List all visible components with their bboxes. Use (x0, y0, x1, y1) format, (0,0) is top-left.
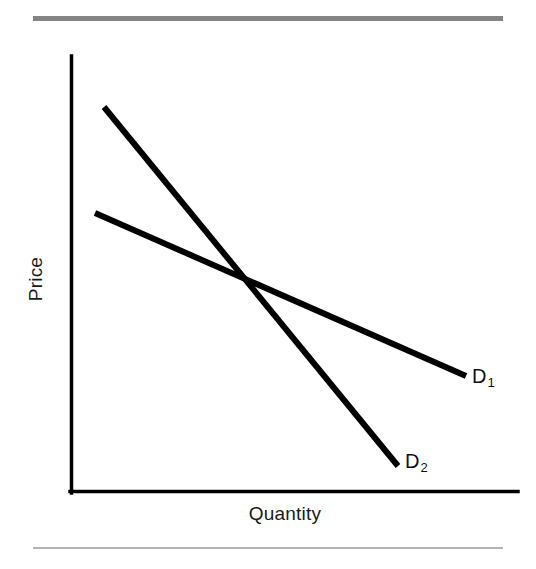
curve-label-d1-text: D (472, 365, 486, 387)
curve-label-d2-text: D (405, 450, 419, 472)
demand-curve-chart (0, 0, 536, 569)
demand-curve-d2 (104, 107, 398, 466)
curve-label-d2-subscript: 2 (420, 460, 427, 475)
demand-curve-d1 (95, 213, 466, 376)
curve-label-d2: D2 (405, 450, 427, 473)
bottom-divider-rule (33, 547, 503, 549)
figure-page: Price Quantity D1 D2 (0, 0, 536, 569)
curve-label-d1-subscript: 1 (487, 375, 494, 390)
y-axis-label: Price (25, 234, 47, 324)
curve-label-d1: D1 (472, 365, 494, 388)
x-axis-label: Quantity (210, 503, 360, 525)
